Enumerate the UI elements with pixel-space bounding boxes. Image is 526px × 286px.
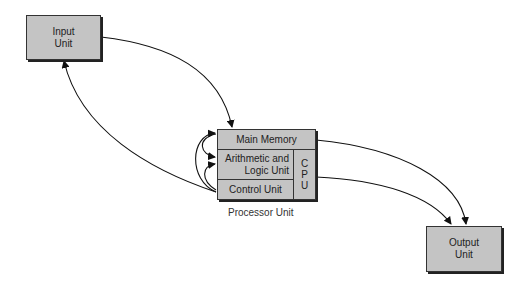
alu-label-line1: Arithmetic and xyxy=(225,153,289,165)
arrow-control-to-input xyxy=(64,61,216,192)
input-unit-label-line1: Input xyxy=(52,26,74,38)
control-unit-label: Control Unit xyxy=(229,184,282,196)
output-unit-box: Output Unit xyxy=(426,226,502,272)
cpu-letter-p: P xyxy=(301,169,308,180)
arrow-loop-to-memory xyxy=(196,133,216,192)
alu-label-line2: Logic Unit xyxy=(225,165,289,177)
arrow-memory-to-output xyxy=(316,140,466,224)
alu-cell: Arithmetic and Logic Unit xyxy=(218,150,294,180)
input-unit-box: Input Unit xyxy=(26,15,101,60)
main-memory-cell: Main Memory xyxy=(218,130,315,150)
input-unit-label-line2: Unit xyxy=(52,38,74,50)
processor-unit-box: Main Memory Arithmetic and Logic Unit Co… xyxy=(217,129,316,200)
processor-unit-caption: Processor Unit xyxy=(228,207,294,218)
cpu-cell: C P U xyxy=(294,150,315,199)
main-memory-label: Main Memory xyxy=(236,134,297,146)
arrow-control-to-output xyxy=(316,177,451,224)
output-unit-label-line1: Output xyxy=(449,237,479,249)
output-unit-label-line2: Unit xyxy=(449,249,479,261)
control-unit-cell: Control Unit xyxy=(218,180,294,199)
arrow-input-to-memory xyxy=(101,37,232,127)
cpu-letter-u: U xyxy=(301,180,308,191)
cpu-letter-c: C xyxy=(301,158,308,169)
